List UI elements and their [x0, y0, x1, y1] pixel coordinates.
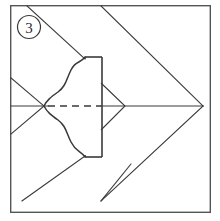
diagram-root: 3 [0, 0, 220, 221]
step-number-label: 3 [25, 20, 33, 36]
origami-diagram: 3 [0, 0, 220, 221]
